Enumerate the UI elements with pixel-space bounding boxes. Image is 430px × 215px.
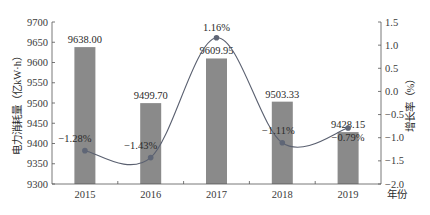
x-tick-label: 2019 (338, 189, 359, 200)
left-tick-label: 9650 (27, 37, 48, 48)
left-axis-title: 电力消耗量（亿kW·h） (11, 51, 23, 155)
x-tick-label: 2015 (74, 189, 95, 200)
x-tick-label: 2016 (140, 189, 161, 200)
growth-point-2019 (345, 125, 351, 131)
right-axis-ticks: −2.0−1.5−1.0−0.50.00.51.01.5 (378, 17, 404, 190)
x-axis-title: 年份 (387, 188, 408, 200)
left-tick-label: 9450 (27, 118, 48, 129)
bar-value-label: 9499.70 (134, 90, 168, 101)
left-tick-label: 9700 (27, 17, 48, 28)
left-tick-label: 9400 (27, 138, 48, 149)
growth-point-2018 (280, 140, 286, 146)
right-tick-label: 1.0 (385, 40, 398, 51)
right-tick-label: −1.5 (385, 155, 404, 166)
growth-point-2015 (82, 148, 88, 154)
right-tick-label: 0.0 (385, 86, 398, 97)
bar-2015 (74, 47, 95, 184)
left-axis-ticks: 930093509400945095009550960096509700 (27, 17, 55, 190)
growth-point-2017 (214, 35, 220, 41)
growth-value-label: 1.16% (203, 22, 230, 33)
x-tick-label: 2018 (272, 189, 293, 200)
growth-point-2016 (148, 155, 154, 161)
right-tick-label: 0.5 (385, 63, 398, 74)
left-tick-label: 9600 (27, 57, 48, 68)
right-tick-label: −1.0 (385, 132, 404, 143)
right-tick-label: 1.5 (385, 17, 398, 28)
bar-value-label: 9638.00 (68, 34, 102, 45)
left-tick-label: 9300 (27, 179, 48, 190)
left-tick-label: 9350 (27, 158, 48, 169)
right-tick-label: −0.5 (385, 109, 404, 120)
bar-line-chart: 930093509400945095009550960096509700 −2.… (0, 0, 430, 215)
growth-value-label: −1.43% (124, 140, 157, 151)
bar-2017 (206, 58, 227, 184)
bar-value-label: 9503.33 (265, 89, 299, 100)
right-axis-title: 增长率（%） (404, 74, 416, 133)
growth-value-label: −0.79% (332, 132, 365, 143)
left-tick-label: 9550 (27, 77, 48, 88)
growth-value-label: −1.28% (58, 133, 91, 144)
growth-value-label: −1.11% (262, 125, 295, 136)
x-tick-label: 2017 (206, 189, 227, 200)
left-tick-label: 9500 (27, 98, 48, 109)
right-tick-label: −2.0 (385, 179, 404, 190)
